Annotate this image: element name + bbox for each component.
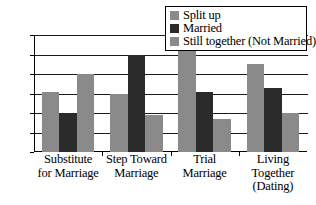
bar [42, 92, 60, 152]
x-axis-label-line: Living [239, 153, 307, 167]
x-axis-label-line: Substitute [34, 153, 102, 167]
bar [110, 94, 128, 153]
x-axis-label-line: (Dating) [239, 180, 307, 194]
legend-item-split-up: Split up [170, 9, 303, 21]
x-axis-label-line: Marriage [102, 167, 170, 181]
x-axis-label: LivingTogether(Dating) [239, 153, 307, 194]
bar [247, 64, 265, 152]
legend-item-still-together: Still together (Not Married) [170, 35, 303, 47]
legend: Split up Married Still together (Not Mar… [165, 6, 307, 51]
x-axis-label-line: Together [239, 167, 307, 181]
x-axis-labels: Substitutefor MarriageStep TowardMarriag… [34, 153, 307, 205]
bar-group [178, 35, 231, 152]
x-axis-label-line: Step Toward [102, 153, 170, 167]
bar-group [247, 35, 300, 152]
bar [282, 113, 300, 152]
legend-label-still-together: Still together (Not Married) [183, 35, 316, 47]
bar-group [42, 35, 95, 152]
legend-label-married: Married [183, 22, 222, 34]
bar [178, 51, 196, 152]
x-axis-label: TrialMarriage [171, 153, 239, 180]
bar [77, 74, 95, 152]
bar-chart: 0102030405060 Substitutefor MarriageStep… [0, 0, 316, 205]
bar [196, 92, 214, 152]
legend-item-married: Married [170, 22, 303, 34]
legend-swatch-married [170, 24, 179, 33]
bar [59, 113, 77, 152]
x-axis-label: Step TowardMarriage [102, 153, 170, 180]
bar [213, 119, 231, 152]
bar [264, 88, 282, 152]
x-axis-label: Substitutefor Marriage [34, 153, 102, 180]
x-axis-label-line: for Marriage [34, 167, 102, 181]
x-axis-label-line: Marriage [171, 167, 239, 181]
x-axis-label-line: Trial [171, 153, 239, 167]
bar [145, 115, 163, 152]
legend-label-split-up: Split up [183, 9, 221, 21]
bar [128, 55, 146, 153]
legend-swatch-still-together [170, 37, 179, 46]
bar-group [110, 35, 163, 152]
legend-swatch-split-up [170, 11, 179, 20]
bar-groups [34, 35, 307, 152]
